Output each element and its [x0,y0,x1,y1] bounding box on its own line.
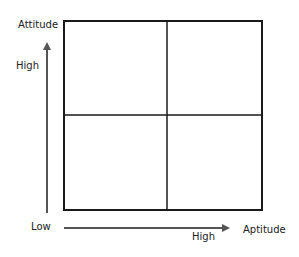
x-axis-title: Aptitude [243,224,286,236]
quadrant-grid [64,21,262,210]
y-axis-title: Attitude [18,19,58,31]
y-axis-high-label: High [16,60,39,72]
x-axis-high-label: High [192,231,215,243]
origin-low-label: Low [31,221,51,233]
matrix-diagram [0,0,299,257]
